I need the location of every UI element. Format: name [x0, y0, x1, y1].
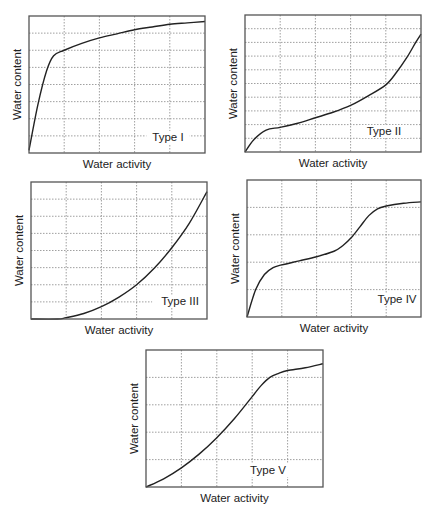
y-axis-label: Water content	[227, 47, 239, 119]
panel-type-label: Type IV	[378, 293, 417, 305]
isotherm-panel-2: Type IIWater activityWater content	[227, 15, 421, 169]
isotherm-panel-3: Type IIIWater activityWater content	[13, 182, 208, 336]
panel-type-label: Type I	[152, 131, 183, 143]
panel-type-label: Type III	[161, 295, 199, 307]
panel-type-label: Type V	[250, 464, 286, 476]
sorption-isotherms-figure: Type IWater activityWater contentType II…	[0, 0, 435, 519]
x-axis-label: Water activity	[83, 158, 152, 170]
x-axis-label: Water activity	[299, 157, 368, 169]
y-axis-label: Water content	[229, 212, 241, 284]
y-axis-label: Water content	[13, 214, 25, 286]
x-axis-label: Water activity	[200, 492, 269, 504]
panel-type-label: Type II	[367, 125, 402, 137]
isotherm-panel-1: Type IWater activityWater content	[11, 16, 205, 170]
x-axis-label: Water activity	[85, 324, 154, 336]
isotherm-panel-5: Type VWater activityWater content	[128, 350, 323, 504]
y-axis-label: Water content	[11, 48, 23, 120]
isotherm-curve	[146, 364, 323, 487]
y-axis-label: Water content	[128, 382, 140, 454]
isotherm-panel-4: Type IVWater activityWater content	[229, 180, 422, 334]
x-axis-label: Water activity	[300, 322, 369, 334]
